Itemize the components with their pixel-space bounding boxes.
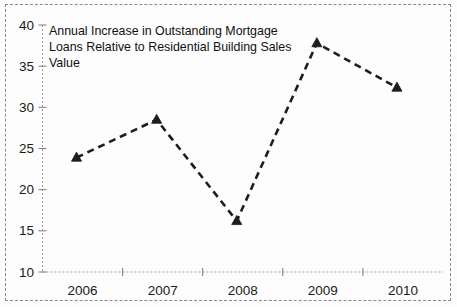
- data-point-marker: [312, 38, 322, 47]
- y-axis-tick-label: 20: [19, 182, 34, 197]
- y-axis-tick-label: 10: [19, 265, 34, 280]
- x-axis-tick-label: 2007: [148, 283, 178, 298]
- x-axis-tick-labels: 20062007200820092010: [68, 283, 418, 298]
- chart-title-line-3: Value: [49, 56, 80, 70]
- y-axis-tick-label: 35: [19, 59, 34, 74]
- y-axis-tick-label: 40: [19, 18, 34, 33]
- chart-title-line-2: Loans Relative to Residential Building S…: [49, 40, 291, 54]
- x-axis-tick-label: 2010: [388, 283, 418, 298]
- x-axis-tick-label: 2008: [228, 283, 258, 298]
- series-line-mortgage-loans: [77, 43, 397, 221]
- data-point-marker: [232, 215, 242, 224]
- x-axis-tick-label: 2006: [68, 283, 98, 298]
- x-axis-tick-label: 2009: [308, 283, 338, 298]
- chart-title-line-1: Annual Increase in Outstanding Mortgage: [49, 24, 278, 38]
- line-chart: 10152025303540 20062007200820092010 Annu…: [0, 0, 457, 307]
- y-axis-tick-label: 15: [19, 223, 34, 238]
- y-axis-tick-labels: 10152025303540: [19, 18, 34, 280]
- y-axis-tick-label: 25: [19, 141, 34, 156]
- figure-container: 10152025303540 20062007200820092010 Annu…: [0, 0, 457, 307]
- chart-title: Annual Increase in Outstanding Mortgage …: [49, 24, 291, 70]
- data-point-marker: [152, 114, 162, 123]
- series-markers: [72, 38, 402, 225]
- y-axis-tick-label: 30: [19, 100, 34, 115]
- data-point-marker: [392, 82, 402, 91]
